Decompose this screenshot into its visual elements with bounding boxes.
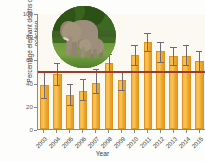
error-bar [122,71,123,90]
error-bar-cap [196,51,202,52]
y-tick-label: 80 [26,34,33,40]
y-tick-label: 60 [26,57,33,63]
y-tick-label: 0 [30,127,33,133]
error-bar [83,79,84,100]
error-bar [199,51,200,71]
reference-line [38,71,205,72]
error-bar-cap [170,47,176,48]
x-tick-mark [134,130,135,133]
x-tick-mark [108,130,109,133]
y-tick-label: 20 [26,104,33,110]
y-tick-label: 40 [26,81,33,87]
error-bar-cap [54,85,60,86]
x-tick-mark [95,130,96,133]
x-tick-mark [82,130,83,133]
y-tick-mark [34,130,37,131]
error-bar [70,84,71,105]
error-bar [173,47,174,66]
bar [156,51,164,129]
x-tick-mark [56,130,57,133]
x-tick-mark [160,130,161,133]
error-bar-cap [183,45,189,46]
elephant-photo-inset [52,6,116,68]
error-bar-cap [41,98,47,99]
bar [182,56,190,129]
error-bar-cap [80,79,86,80]
error-bar-cap [80,100,86,101]
error-bar-cap [157,62,163,63]
error-bar-cap [144,33,150,34]
x-tick-mark [186,130,187,133]
error-bar-cap [131,45,137,46]
y-tick-label: 100 [23,11,33,17]
error-bar-cap [144,51,150,52]
x-tick-mark [43,130,44,133]
adult-elephant-leg [71,42,77,58]
error-bar [160,42,161,62]
error-bar-cap [157,42,163,43]
error-bar [135,45,136,65]
error-bar-cap [131,65,137,66]
x-tick-mark [121,130,122,133]
x-tick-mark [173,130,174,133]
bar [144,42,152,129]
x-axis-label: Year [0,150,205,157]
error-bar-cap [93,69,99,70]
error-bar-cap [67,105,73,106]
error-bar-cap [67,84,73,85]
x-tick-mark [147,130,148,133]
chart-figure: Percentage elephant deaths due to poachi… [0,0,205,162]
error-bar-cap [93,93,99,94]
bar [169,56,177,129]
error-bar-cap [183,65,189,66]
error-bar [147,33,148,52]
x-tick-mark [69,130,70,133]
error-bar-cap [118,90,124,91]
x-tick-mark [199,130,200,133]
calf-leg [93,49,97,58]
photo-foreground-grass [52,58,116,68]
error-bar-cap [170,65,176,66]
error-bar [186,45,187,65]
error-bar [44,72,45,98]
